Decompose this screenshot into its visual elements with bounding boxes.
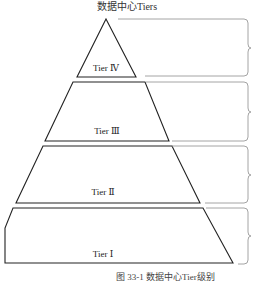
tier-3-brace	[146, 82, 251, 141]
tier-3-label: Tier Ⅲ	[67, 126, 147, 137]
tier-4-label: Tier Ⅳ	[66, 63, 146, 74]
tier-1-label: Tier Ⅰ	[63, 249, 143, 260]
tier-2-brace	[172, 146, 251, 203]
tier-2-label: Tier Ⅱ	[63, 187, 143, 198]
figure-caption: 图 33-1 数据中心Tier级别	[116, 272, 215, 283]
